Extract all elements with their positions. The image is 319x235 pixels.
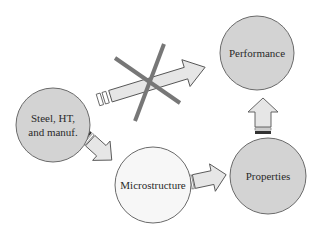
node-microstructure: Microstructure [115, 147, 191, 223]
node-properties-label: Properties [246, 170, 291, 182]
node-steel-label-line-1: Steel, HT, [31, 112, 75, 124]
node-properties: Properties [230, 138, 306, 214]
arrow-properties-to-performance [248, 98, 278, 134]
node-performance-label: Performance [229, 47, 285, 59]
node-performance: Performance [220, 16, 294, 90]
node-microstructure-label: Microstructure [120, 179, 185, 191]
node-steel-ht-manuf: Steel, HT, and manuf. [16, 88, 90, 162]
processing-structure-property-performance-diagram: Steel, HT, and manuf. Performance Micros… [0, 0, 319, 235]
node-steel-label-line-2: and manuf. [28, 126, 78, 138]
